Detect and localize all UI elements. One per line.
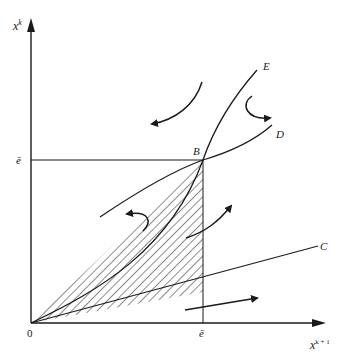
curve-D-label: D <box>275 128 284 140</box>
y-axis-arrow-icon <box>27 18 35 32</box>
y-tick-e-bar: ē <box>16 154 21 166</box>
point-B-label: B <box>193 145 200 157</box>
x-tick-e-bar: ē <box>199 327 204 339</box>
arrow-top-left-icon <box>152 82 202 124</box>
x-axis-arrow-icon <box>312 319 326 327</box>
hatched-region <box>31 160 203 323</box>
arrow-right-icon <box>185 298 257 310</box>
arrow-curl-right-icon <box>246 96 270 118</box>
curve-E-label: E <box>262 60 270 72</box>
origin-label: 0 <box>27 327 33 339</box>
y-axis-label: xk <box>12 18 22 33</box>
curve-C-label: C <box>320 240 328 252</box>
phase-diagram: xk xk + 1 0 ē ē B E D C <box>0 0 349 359</box>
x-axis-label: xk + 1 <box>309 338 330 352</box>
